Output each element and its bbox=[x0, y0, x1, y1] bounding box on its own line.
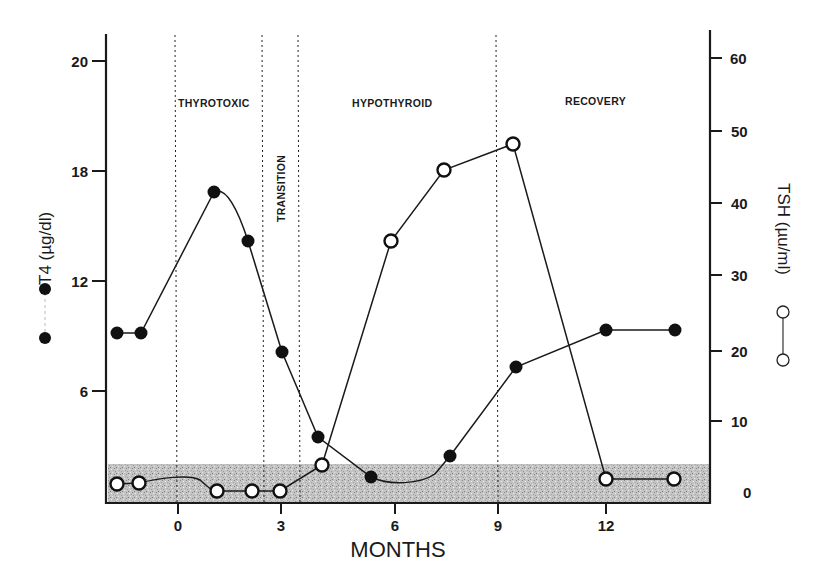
x-tick-label: 6 bbox=[391, 517, 399, 534]
t4-point bbox=[208, 186, 221, 199]
x-axis-ticks bbox=[178, 503, 606, 514]
t4-point bbox=[242, 235, 255, 248]
tsh-point bbox=[316, 459, 329, 472]
x-axis-title: MONTHS bbox=[350, 537, 445, 562]
t4-point bbox=[135, 327, 148, 340]
right-axis-ticks bbox=[710, 58, 722, 421]
right-axis-labels: 60 50 40 30 20 10 0 bbox=[730, 50, 751, 501]
tsh-point bbox=[111, 478, 124, 491]
region-label-transition: TRANSITION bbox=[275, 155, 287, 222]
tsh-points bbox=[111, 138, 681, 498]
y-right-tick-label: 30 bbox=[731, 267, 748, 284]
t4-point bbox=[365, 471, 378, 484]
x-tick-label: 0 bbox=[174, 517, 182, 534]
y-right-tick-label: 40 bbox=[731, 195, 748, 212]
t4-point bbox=[669, 324, 682, 337]
t4-point bbox=[600, 324, 613, 337]
left-axis-labels: 20 18 12 6 bbox=[71, 53, 88, 400]
y-right-axis-title: TSH (µu/ml) bbox=[774, 183, 793, 275]
y-right-tick-label: 60 bbox=[730, 50, 747, 67]
t4-point bbox=[276, 346, 289, 359]
tsh-point bbox=[668, 473, 681, 486]
tsh-point bbox=[385, 235, 398, 248]
y-left-tick-label: 20 bbox=[71, 53, 88, 70]
x-tick-label: 3 bbox=[277, 517, 285, 534]
tsh-point bbox=[438, 164, 451, 177]
y-left-tick-label: 6 bbox=[80, 383, 88, 400]
tsh-series-line bbox=[117, 144, 674, 491]
tsh-point bbox=[133, 477, 146, 490]
y-right-tick-label: 0 bbox=[743, 484, 751, 501]
tsh-point bbox=[274, 485, 287, 498]
tsh-point bbox=[246, 485, 259, 498]
x-tick-label: 12 bbox=[598, 517, 615, 534]
region-label-thyrotoxic: THYROTOXIC bbox=[178, 97, 250, 109]
region-label-hypothyroid: HYPOTHYROID bbox=[352, 97, 432, 109]
t4-legend-marker bbox=[39, 283, 51, 344]
t4-point bbox=[510, 361, 523, 374]
left-axis-ticks bbox=[92, 61, 106, 391]
x-tick-label: 9 bbox=[494, 517, 502, 534]
y-left-tick-label: 18 bbox=[71, 163, 88, 180]
chart-canvas: 20 18 12 6 60 50 40 30 20 10 0 0 3 6 9 1… bbox=[0, 0, 816, 587]
x-axis-labels: 0 3 6 9 12 bbox=[174, 517, 615, 534]
y-left-tick-label: 12 bbox=[71, 273, 88, 290]
tsh-point bbox=[600, 473, 613, 486]
t4-point bbox=[444, 450, 457, 463]
tsh-point bbox=[507, 138, 520, 151]
y-left-axis-title: T4 (µg/dl) bbox=[36, 212, 55, 285]
y-right-tick-label: 10 bbox=[731, 413, 748, 430]
tsh-point bbox=[211, 485, 224, 498]
t4-point bbox=[111, 327, 124, 340]
t4-point bbox=[312, 431, 325, 444]
tsh-legend-marker bbox=[777, 306, 789, 366]
y-right-tick-label: 20 bbox=[731, 343, 748, 360]
y-right-tick-label: 50 bbox=[731, 123, 748, 140]
normal-range-band bbox=[108, 464, 709, 503]
region-label-recovery: RECOVERY bbox=[565, 95, 626, 107]
